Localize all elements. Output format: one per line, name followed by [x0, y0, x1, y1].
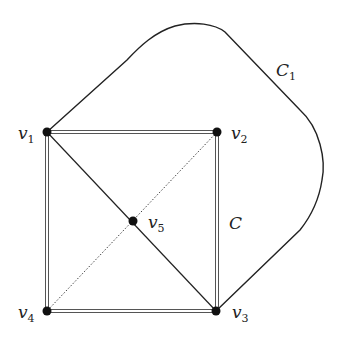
- vertex-v1: [43, 128, 52, 137]
- vertex-v5: [129, 217, 138, 226]
- label-v5: v5: [148, 212, 165, 235]
- label-v2: v2: [231, 123, 248, 146]
- label-v3: v3: [232, 302, 249, 325]
- edge-v2-v3: [216, 132, 219, 311]
- vertex-v3: [212, 307, 221, 316]
- label-cycle-c1: C1: [276, 60, 296, 83]
- label-v4: v4: [18, 302, 35, 325]
- vertex-v4: [43, 307, 52, 316]
- edge-v4-v1: [46, 132, 49, 311]
- graph-diagram: v1 v2 v3 v4 v5 C C1: [0, 0, 343, 344]
- edge-v1-v2: [47, 131, 217, 134]
- edge-v3-v4: [47, 310, 216, 313]
- label-cycle-c: C: [229, 213, 242, 233]
- vertex-v2: [213, 128, 222, 137]
- label-v1: v1: [18, 123, 35, 146]
